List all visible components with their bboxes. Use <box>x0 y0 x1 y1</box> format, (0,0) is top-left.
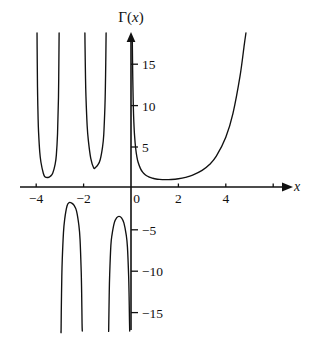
y-tick-label--10: −10 <box>142 264 163 279</box>
chart-title: Γ(x) <box>118 9 143 26</box>
x-axis: x <box>20 179 301 194</box>
x-tick-label--2: −2 <box>76 191 90 206</box>
x-axis-arrow-icon <box>282 183 293 192</box>
curve-branch-1 <box>109 216 130 331</box>
curve-branch-3 <box>61 202 82 332</box>
x-tick-label-4: 4 <box>222 191 229 206</box>
y-tick-marks <box>131 64 138 312</box>
y-tick-label--15: −15 <box>142 306 163 321</box>
y-tick-label-15: 15 <box>142 57 156 72</box>
y-axis <box>127 32 136 330</box>
curve-branch-2 <box>85 33 106 169</box>
y-tick-labels: 15 10 5 −5 −10 −15 <box>142 57 163 321</box>
x-tick-label-0: 0 <box>133 191 140 206</box>
gamma-curve <box>37 33 246 333</box>
x-tick-labels: −4 −2 0 2 4 <box>29 191 229 206</box>
y-tick-label-10: 10 <box>142 99 156 114</box>
gamma-function-figure: Γ(x) x −4 −2 0 2 4 <box>0 0 312 340</box>
plot-canvas: Γ(x) x −4 −2 0 2 4 <box>0 0 312 340</box>
y-axis-arrow-icon <box>127 32 136 42</box>
y-tick-label-5: 5 <box>142 140 149 155</box>
curve-branch-4 <box>37 33 59 178</box>
x-axis-label: x <box>293 179 301 194</box>
x-tick-label--4: −4 <box>29 191 44 206</box>
x-tick-label-2: 2 <box>175 191 182 206</box>
y-tick-label--5: −5 <box>142 223 157 238</box>
